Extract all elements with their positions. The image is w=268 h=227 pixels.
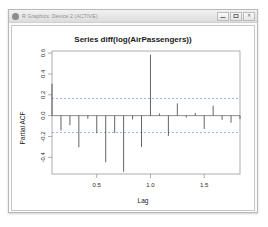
- r-graphics-window: R Graphics: Device 2 (ACTIVE) ✕ Series d…: [8, 9, 258, 213]
- x-axis-ticks: 0.51.01.5: [93, 174, 209, 188]
- x-tick-label: 0.5: [93, 182, 102, 188]
- maximize-icon: [234, 14, 239, 18]
- y-tick-label: 0.2: [40, 90, 46, 99]
- pacf-spikes: [52, 55, 240, 172]
- x-tick-label: 1.5: [200, 182, 209, 188]
- plot-canvas: Series diff(log(AirPassengers)) Partial …: [11, 25, 255, 211]
- maximize-button[interactable]: [230, 12, 242, 21]
- window-title: R Graphics: Device 2 (ACTIVE): [22, 10, 217, 23]
- y-tick-label: -0.4: [40, 151, 46, 162]
- x-axis-title: Lag: [138, 197, 149, 205]
- desktop-background: R Graphics: Device 2 (ACTIVE) ✕ Series d…: [0, 0, 268, 227]
- window-titlebar[interactable]: R Graphics: Device 2 (ACTIVE) ✕: [9, 10, 257, 23]
- y-axis-title: Partial ACF: [19, 112, 26, 145]
- pacf-plot: Series diff(log(AirPassengers)) Partial …: [12, 26, 254, 210]
- y-axis-ticks: -0.4-0.20.00.20.40.6: [40, 48, 52, 162]
- minimize-button[interactable]: [217, 12, 229, 21]
- y-tick-label: -0.2: [40, 131, 46, 142]
- y-tick-label: 0.4: [40, 69, 46, 78]
- x-tick-label: 1.0: [146, 182, 155, 188]
- y-tick-label: 0.6: [40, 48, 46, 57]
- y-tick-label: 0.0: [40, 111, 46, 120]
- close-button[interactable]: ✕: [243, 12, 255, 21]
- window-controls: ✕: [217, 12, 255, 21]
- minimize-icon: [221, 17, 226, 18]
- r-device-icon: [12, 13, 19, 20]
- close-icon: ✕: [247, 14, 251, 19]
- plot-title: Series diff(log(AirPassengers)): [74, 35, 192, 44]
- plot-frame: [52, 51, 240, 174]
